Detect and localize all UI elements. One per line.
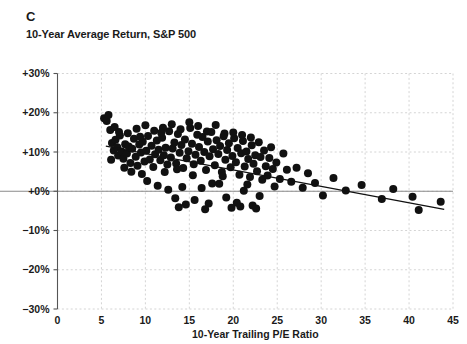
y-tick-label: +20% xyxy=(22,106,50,118)
x-axis-title: 10-Year Trailing P/E Ratio xyxy=(192,328,319,340)
scatter-point xyxy=(162,144,170,152)
scatter-point xyxy=(157,129,165,137)
scatter-point xyxy=(272,159,280,167)
scatter-point xyxy=(283,166,291,174)
x-tick-label: 45 xyxy=(447,314,459,326)
scatter-point xyxy=(238,131,246,139)
scatter-point xyxy=(215,180,223,188)
scatter-point xyxy=(185,118,193,126)
scatter-point xyxy=(220,130,228,138)
scatter-point xyxy=(232,158,240,166)
scatter-point xyxy=(182,201,190,209)
scatter-point xyxy=(279,150,287,158)
x-tick-label: 35 xyxy=(359,314,371,326)
scatter-point xyxy=(191,196,199,204)
scatter-point xyxy=(149,163,157,171)
scatter-point xyxy=(228,204,236,212)
x-tick-label: 15 xyxy=(183,314,195,326)
scatter-point xyxy=(189,171,197,179)
scatter-point xyxy=(184,147,192,155)
scatter-point xyxy=(150,127,158,135)
scatter-point xyxy=(241,163,249,171)
scatter-point xyxy=(409,193,417,201)
scatter-point xyxy=(143,177,151,185)
scatter-point xyxy=(181,135,189,143)
scatter-point xyxy=(246,173,254,181)
y-tick-label: −20% xyxy=(22,263,50,275)
scatter-point xyxy=(163,161,171,169)
scatter-point xyxy=(242,148,250,156)
scatter-plot: −30%−20%−10%+0%+10%+20%+30% 051015202530… xyxy=(0,0,467,344)
scatter-point xyxy=(176,149,184,157)
chart-figure: C 10-Year Average Return, S&P 500 −30%−2… xyxy=(0,0,467,344)
trend-line xyxy=(106,146,444,209)
scatter-point xyxy=(164,186,172,194)
scatter-point xyxy=(201,205,209,213)
scatter-point xyxy=(319,192,327,200)
scatter-point xyxy=(170,139,178,147)
x-tick-label: 10 xyxy=(140,314,152,326)
scatter-point xyxy=(229,128,237,136)
scatter-point xyxy=(204,137,212,145)
scatter-point xyxy=(206,152,214,160)
axis-ticks xyxy=(54,74,58,310)
scatter-point xyxy=(115,128,123,136)
scatter-point xyxy=(177,125,185,133)
scatter-point xyxy=(198,184,206,192)
scatter-point xyxy=(247,133,255,141)
x-axis-tick-labels: 051015202530354045 xyxy=(55,314,459,326)
scatter-point xyxy=(256,192,264,200)
scatter-point xyxy=(271,183,279,191)
scatter-point xyxy=(216,142,224,150)
scatter-point xyxy=(267,143,275,151)
scatter-point xyxy=(144,132,152,140)
scatter-point xyxy=(243,181,251,189)
scatter-points xyxy=(100,111,445,214)
scatter-point xyxy=(221,156,229,164)
scatter-point xyxy=(208,179,216,187)
scatter-point xyxy=(299,184,307,192)
scatter-point xyxy=(168,120,176,128)
scatter-point xyxy=(120,164,128,172)
scatter-point xyxy=(378,195,386,203)
scatter-point xyxy=(154,182,162,190)
scatter-point xyxy=(265,154,273,162)
scatter-point xyxy=(293,164,301,172)
scatter-point xyxy=(415,206,423,214)
scatter-point xyxy=(262,162,270,170)
scatter-point xyxy=(104,111,112,119)
scatter-point xyxy=(248,141,256,149)
scatter-point xyxy=(141,121,149,129)
scatter-point xyxy=(219,172,227,180)
scatter-point xyxy=(127,168,135,176)
scatter-point xyxy=(437,198,445,206)
x-tick-label: 25 xyxy=(271,314,283,326)
scatter-point xyxy=(136,133,144,141)
scatter-point xyxy=(214,150,222,158)
scatter-point xyxy=(138,170,146,178)
scatter-point xyxy=(194,122,202,130)
x-tick-label: 20 xyxy=(227,314,239,326)
x-tick-label: 40 xyxy=(403,314,415,326)
scatter-point xyxy=(178,183,186,191)
scatter-point xyxy=(124,129,132,137)
scatter-point xyxy=(175,203,183,211)
trend-line-segment xyxy=(106,146,444,209)
scatter-point xyxy=(203,128,211,136)
scatter-point xyxy=(202,166,210,174)
scatter-point xyxy=(161,168,169,176)
scatter-point xyxy=(190,160,198,168)
y-tick-label: +10% xyxy=(22,146,50,158)
scatter-point xyxy=(222,194,230,202)
scatter-point xyxy=(188,140,196,148)
y-tick-label: −10% xyxy=(22,224,50,236)
x-tick-label: 30 xyxy=(315,314,327,326)
scatter-point xyxy=(249,160,257,168)
x-tick-label: 5 xyxy=(99,314,105,326)
scatter-point xyxy=(252,205,260,213)
x-tick-label: 0 xyxy=(55,314,61,326)
scatter-point xyxy=(389,185,397,193)
scatter-point xyxy=(236,203,244,211)
scatter-point xyxy=(173,165,181,173)
scatter-point xyxy=(107,156,115,164)
